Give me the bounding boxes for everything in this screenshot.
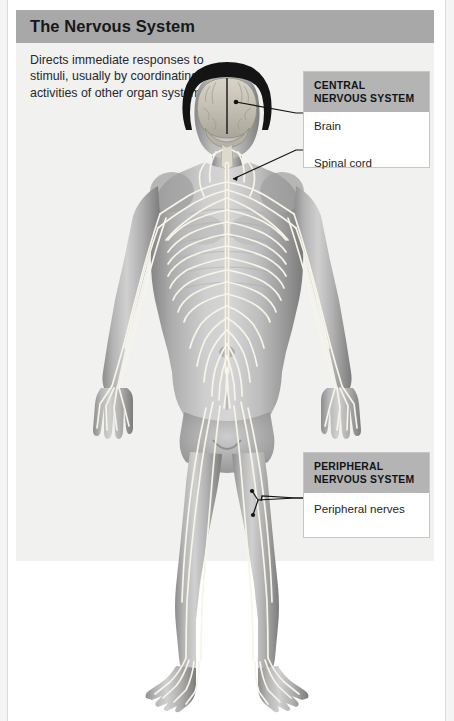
panel-header-bar: The Nervous System (16, 10, 434, 43)
left-page-edge (0, 0, 8, 721)
cns-callout-header: CENTRAL NERVOUS SYSTEM (304, 72, 429, 112)
cns-item-brain: Brain (314, 119, 341, 134)
peripheral-nervous-system-callout: PERIPHERAL NERVOUS SYSTEM Peripheral ner… (303, 452, 430, 538)
cns-callout-body: Brain Spinal cord (304, 112, 429, 191)
pns-callout-body: Peripheral nerves (304, 493, 429, 525)
central-nervous-system-callout: CENTRAL NERVOUS SYSTEM Brain Spinal cord (303, 71, 430, 168)
pns-callout-header: PERIPHERAL NERVOUS SYSTEM (304, 453, 429, 493)
cns-item-spinal-cord: Spinal cord (314, 156, 372, 171)
panel-description: Directs immediate responses to stimuli, … (30, 52, 245, 101)
page-title: The Nervous System (30, 17, 195, 36)
right-page-edge (445, 0, 454, 721)
pns-item-peripheral-nerves: Peripheral nerves (314, 502, 420, 517)
